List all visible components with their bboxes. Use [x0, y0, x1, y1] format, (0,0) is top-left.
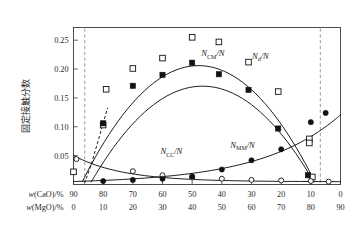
data-point [275, 89, 281, 95]
data-point [190, 174, 195, 179]
data-point [103, 86, 109, 92]
data-point [71, 169, 77, 175]
data-point [219, 167, 224, 172]
data-point [276, 126, 281, 131]
x-tick-label-mgo: 0 [71, 203, 75, 212]
x-axis-name-cao: w(CaO)/% [28, 190, 63, 199]
data-point [246, 87, 251, 92]
x-tick-label-mgo: 90 [336, 203, 344, 212]
y-axis-title: 固定接触分数 [20, 79, 31, 133]
chart-figure: 0.050.100.150.200.25 9080706050403020100… [0, 0, 357, 229]
x-tick-label-cao: 80 [99, 190, 107, 199]
x-tick-label-cao: 50 [188, 190, 196, 199]
x-tick-label-cao: 10 [307, 190, 315, 199]
data-point [130, 66, 136, 72]
chart-canvas: 0.050.100.150.200.25 9080706050403020100… [0, 0, 357, 229]
x-tick-label-cao: 30 [247, 190, 255, 199]
x-tick-label-mgo: 30 [158, 203, 166, 212]
data-point [160, 72, 165, 77]
x-tick-label-mgo: 20 [129, 203, 137, 212]
x-tick-label-mgo: 60 [247, 203, 255, 212]
data-point [249, 158, 254, 163]
data-point [101, 178, 106, 183]
data-point [160, 55, 166, 61]
data-point [279, 178, 284, 183]
data-point [219, 176, 224, 181]
data-point [305, 173, 310, 178]
y-axis-label: 固定接触分数 [20, 79, 31, 133]
x-tick-label-cao: 40 [218, 190, 226, 199]
x-tick-label-cao: 20 [277, 190, 285, 199]
data-point [307, 140, 313, 146]
x-tick-label-cao: 0 [338, 190, 342, 199]
data-point [323, 110, 328, 115]
data-point [308, 179, 313, 184]
x-tick-label-mgo: 40 [188, 203, 196, 212]
data-point [101, 121, 106, 126]
data-point [160, 176, 165, 181]
data-point [326, 179, 331, 184]
data-point [130, 83, 135, 88]
y-tick-label: 0.15 [54, 94, 68, 103]
data-point [190, 60, 195, 65]
x-tick-label-cao: 70 [129, 190, 137, 199]
data-point [74, 157, 79, 162]
data-point [216, 72, 221, 77]
data-point [279, 147, 284, 152]
x-tick-label-mgo: 50 [218, 203, 226, 212]
x-tick-label-cao: 90 [69, 190, 77, 199]
data-point [216, 39, 222, 45]
data-point [189, 35, 195, 41]
curve-label-Nd: Nd/N [251, 51, 270, 62]
y-tick-label: 0.10 [54, 123, 68, 132]
y-tick-label: 0.25 [54, 36, 68, 45]
data-point [246, 59, 252, 65]
x-tick-label-mgo: 70 [277, 203, 285, 212]
data-point [130, 177, 135, 182]
data-point [308, 120, 313, 125]
x-tick-label-mgo: 10 [99, 203, 107, 212]
x-axis-name-mgo: w(MgO)/% [26, 203, 63, 212]
y-tick-label: 0.20 [54, 65, 68, 74]
y-tick-label: 0.05 [54, 152, 68, 161]
data-point [130, 169, 135, 174]
x-tick-label-mgo: 80 [307, 203, 315, 212]
x-tick-label-cao: 60 [158, 190, 166, 199]
data-point [249, 177, 254, 182]
